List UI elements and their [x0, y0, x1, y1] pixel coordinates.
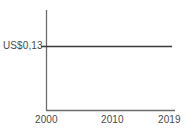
- x-axis-tick-2019: 2019: [158, 114, 181, 125]
- x-axis-tick-2010: 2010: [101, 114, 124, 125]
- line-chart: US$0,13 2000 2010 2019: [0, 0, 188, 135]
- y-axis-value-label: US$0,13: [3, 40, 43, 51]
- x-axis-tick-2000: 2000: [35, 114, 58, 125]
